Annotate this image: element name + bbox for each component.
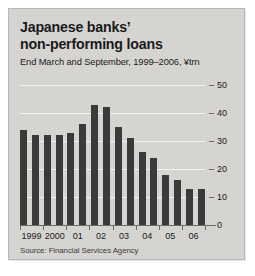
chart-panel: Japanese banks’ non-performing loans Jap… bbox=[8, 8, 245, 260]
x-tick bbox=[89, 226, 90, 230]
x-axis-label: 03 bbox=[119, 231, 129, 241]
bar bbox=[150, 158, 157, 225]
y-axis-label: 20 bbox=[217, 164, 227, 174]
y-axis-label: 30 bbox=[217, 136, 227, 146]
bar bbox=[139, 152, 146, 225]
y-axis-label: 50 bbox=[217, 80, 227, 90]
x-axis-ticks bbox=[20, 226, 205, 230]
bar bbox=[127, 138, 134, 225]
y-axis-label: 40 bbox=[217, 108, 227, 118]
bar bbox=[56, 135, 63, 225]
bar bbox=[91, 105, 98, 225]
y-tick bbox=[209, 113, 214, 114]
bar bbox=[174, 180, 181, 225]
chart-title: Japanese banks’ non-performing loans Jap… bbox=[20, 19, 230, 52]
plot-area bbox=[20, 85, 205, 225]
bar bbox=[103, 107, 110, 225]
bar bbox=[32, 135, 39, 225]
y-axis-labels: 01020304050 bbox=[209, 85, 239, 226]
bar bbox=[115, 127, 122, 225]
title-line-two: non-performing loans bbox=[20, 36, 230, 53]
x-tick bbox=[113, 226, 114, 230]
y-tick bbox=[209, 225, 214, 226]
bar bbox=[44, 135, 51, 225]
y-axis-label: 0 bbox=[217, 220, 222, 230]
y-axis-label: 10 bbox=[217, 192, 227, 202]
bar bbox=[186, 189, 193, 225]
y-tick bbox=[209, 169, 214, 170]
bar bbox=[79, 124, 86, 225]
bar bbox=[20, 130, 27, 225]
x-axis-label: 01 bbox=[73, 231, 83, 241]
bar bbox=[198, 189, 205, 225]
source-note: Source: Financial Services Agency bbox=[20, 246, 138, 255]
x-axis-label: 04 bbox=[142, 231, 152, 241]
bar bbox=[162, 175, 169, 225]
x-tick bbox=[205, 226, 206, 230]
x-axis-labels: 19992000010203040506 bbox=[20, 231, 205, 243]
x-tick bbox=[66, 226, 67, 230]
chart-subtitle: End March and September, 1999–2006, ¥trn bbox=[20, 57, 235, 68]
x-axis-label: 06 bbox=[188, 231, 198, 241]
bar-series bbox=[20, 85, 205, 225]
x-tick bbox=[20, 226, 21, 230]
x-axis-label: 2000 bbox=[45, 231, 65, 241]
x-tick bbox=[136, 226, 137, 230]
x-axis-label: 1999 bbox=[22, 231, 42, 241]
y-tick bbox=[209, 141, 214, 142]
x-tick bbox=[182, 226, 183, 230]
x-tick bbox=[159, 226, 160, 230]
y-tick bbox=[209, 197, 214, 198]
title-line-one: Japanese banks’ bbox=[20, 19, 131, 35]
bar bbox=[67, 133, 74, 225]
x-axis-label: 02 bbox=[96, 231, 106, 241]
y-tick bbox=[209, 85, 214, 86]
x-axis-label: 05 bbox=[165, 231, 175, 241]
x-tick bbox=[43, 226, 44, 230]
